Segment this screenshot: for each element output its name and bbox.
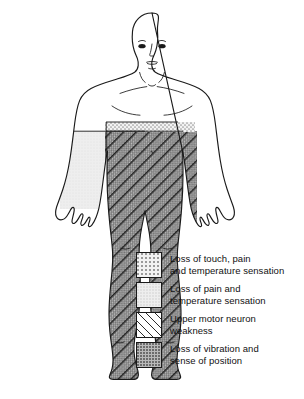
legend-item-loss-of-touch-pain-temperature: Loss of touch, pain and temperature sens… — [136, 252, 304, 278]
legend-swatch-upper-motor-neuron-weakness — [136, 312, 162, 338]
legend-label-line2: temperature sensation — [170, 295, 266, 307]
legend-label-upper-motor-neuron-weakness: Upper motor neuron weakness — [170, 312, 256, 336]
legend-label-loss-of-pain-and-temperature: Loss of pain and temperature sensation — [170, 282, 266, 306]
legend-label-line1: Loss of vibration and — [170, 343, 259, 355]
legend-label-line1: Loss of touch, pain — [170, 253, 284, 265]
legend-swatch-loss-of-pain-and-temperature — [136, 282, 162, 308]
legend-item-loss-of-pain-and-temperature: Loss of pain and temperature sensation — [136, 282, 304, 308]
legend-label-line1: Loss of pain and — [170, 283, 266, 295]
legend-swatch-loss-of-vibration-and-position — [136, 342, 162, 368]
legend-label-loss-of-vibration-and-position: Loss of vibration and sense of position — [170, 342, 259, 366]
legend-label-line2: weakness — [170, 325, 256, 337]
legend-label-line1: Upper motor neuron — [170, 313, 256, 325]
legend-item-upper-motor-neuron-weakness: Upper motor neuron weakness — [136, 312, 304, 338]
legend: Loss of touch, pain and temperature sens… — [136, 252, 304, 372]
legend-label-line2: and temperature sensation — [170, 265, 284, 277]
legend-label-line2: sense of position — [170, 355, 259, 367]
legend-swatch-loss-of-touch-pain-temperature — [136, 252, 162, 278]
legend-label-loss-of-touch-pain-temperature: Loss of touch, pain and temperature sens… — [170, 252, 284, 276]
legend-item-loss-of-vibration-and-position: Loss of vibration and sense of position — [136, 342, 304, 368]
